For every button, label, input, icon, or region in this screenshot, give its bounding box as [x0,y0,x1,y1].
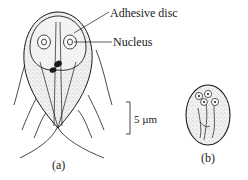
adhesive-disc-label: Adhesive disc [110,7,178,19]
panel-b-caption: (b) [201,152,215,164]
panel-a-caption: (a) [52,159,65,171]
trophozoite-drawing [14,12,112,158]
cyst-drawing [186,85,230,145]
scale-bar-label: 5 µm [134,114,157,125]
scale-bar [126,102,130,134]
nucleus-label: Nucleus [113,36,152,48]
